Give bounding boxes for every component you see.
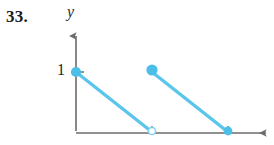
- segment-1-end-open-dot: [148, 127, 155, 134]
- axes-group: [76, 36, 266, 133]
- segment-2-start-closed-dot: [146, 64, 157, 75]
- data-series-group: [76, 72, 228, 132]
- segment-2-line: [152, 72, 228, 132]
- segment-2-end-closed-dot: [224, 127, 233, 136]
- endpoint-markers-group: [71, 64, 233, 135]
- segment-1-line: [76, 72, 152, 132]
- segment-1-start-closed-dot: [71, 67, 81, 77]
- tick-marks-group: [76, 72, 228, 133]
- plot-area: [0, 0, 274, 145]
- figure-container: 33. y 1: [0, 0, 274, 145]
